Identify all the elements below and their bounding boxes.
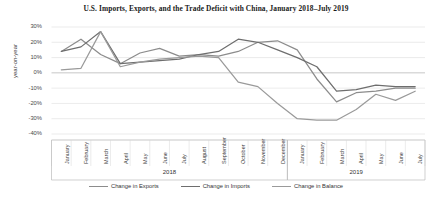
x-axis-tick-label: April bbox=[123, 153, 129, 164]
x-axis-tick-label: November bbox=[260, 139, 266, 164]
x-axis-tick-label: January bbox=[299, 144, 305, 164]
x-axis-tick-label: April bbox=[358, 153, 364, 164]
year-label: 2018 bbox=[52, 169, 288, 175]
x-axis-tick-label: June bbox=[398, 152, 404, 164]
legend-line-icon bbox=[272, 186, 291, 187]
trade-chart: U.S. Imports, Exports, and the Trade Def… bbox=[0, 0, 432, 207]
legend-item[interactable]: Change in Balance bbox=[272, 183, 343, 189]
legend-item[interactable]: Change in Exports bbox=[89, 183, 159, 189]
x-axis-tick-label: December bbox=[280, 139, 286, 164]
x-axis-tick-label: March bbox=[339, 149, 345, 164]
legend-label: Change in Imports bbox=[203, 183, 250, 189]
chart-legend: Change in ExportsChange in ImportsChange… bbox=[0, 183, 432, 189]
x-axis-tick-label: February bbox=[83, 142, 89, 164]
series-lines bbox=[61, 32, 415, 121]
x-axis-tick-label: August bbox=[201, 147, 207, 164]
x-axis-tick-label: May bbox=[142, 154, 148, 164]
x-axis-tick-label: July bbox=[181, 154, 187, 164]
x-axis-tick-label: February bbox=[319, 142, 325, 164]
legend-line-icon bbox=[181, 186, 200, 187]
x-axis-tick-label: September bbox=[221, 137, 227, 164]
x-axis-tick-label: July bbox=[417, 154, 423, 164]
x-axis-tick-label: June bbox=[162, 152, 168, 164]
series-line-change-in-balance bbox=[61, 32, 415, 121]
x-axis-tick-label: October bbox=[240, 144, 246, 164]
x-axis-tick-label: March bbox=[103, 149, 109, 164]
x-axis-tick-label: January bbox=[64, 144, 70, 164]
legend-label: Change in Balance bbox=[294, 183, 343, 189]
year-label: 2019 bbox=[287, 169, 425, 175]
plot-area bbox=[0, 0, 432, 207]
x-axis-tick-label: May bbox=[378, 154, 384, 164]
legend-line-icon bbox=[89, 186, 108, 187]
legend-label: Change in Exports bbox=[111, 183, 159, 189]
legend-item[interactable]: Change in Imports bbox=[181, 183, 250, 189]
series-line-change-in-exports bbox=[61, 39, 415, 102]
